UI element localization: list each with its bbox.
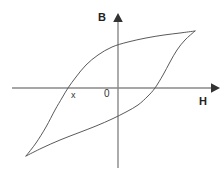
h-axis-arrowhead [211, 83, 220, 93]
h-axis-label: H [199, 96, 207, 107]
b-axis-label: B [98, 12, 106, 23]
coercivity-point-label: x [71, 91, 76, 100]
b-axis-arrowhead [113, 13, 123, 22]
hysteresis-loop-figure: B H 0 x [0, 0, 224, 180]
hysteresis-lower-branch [26, 31, 195, 156]
hysteresis-upper-branch [26, 31, 195, 156]
origin-label: 0 [104, 89, 110, 99]
plot-canvas [0, 0, 224, 180]
